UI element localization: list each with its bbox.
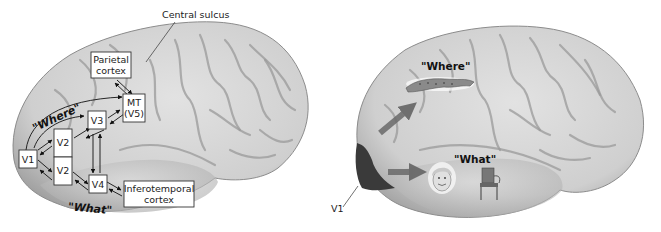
- figure-canvas: Central sulcus Parietal cortex MT (V5) V…: [0, 0, 661, 232]
- v3-label: V3: [91, 115, 104, 126]
- v2-upper-box: V2: [54, 129, 72, 157]
- v2-upper-label: V2: [57, 137, 70, 148]
- it-label-line1: Inferotemporal: [124, 183, 195, 194]
- right-what-label: "What": [454, 153, 496, 165]
- v4-box: V4: [89, 175, 107, 193]
- inferotemporal-cortex-box: Inferotemporal cortex: [124, 181, 195, 207]
- v2-lower-label: V2: [57, 165, 70, 176]
- right-v1-leader: [343, 186, 358, 207]
- parietal-cortex-box: Parietal cortex: [91, 52, 131, 78]
- v2-lower-box: V2: [54, 157, 72, 185]
- mt-label-line2: (V5): [124, 108, 144, 119]
- mt-label-line1: MT: [127, 97, 141, 108]
- v4-label: V4: [92, 179, 105, 190]
- right-v1-label: V1: [331, 203, 344, 214]
- what-stream-label: "What": [67, 200, 112, 217]
- parietal-label-line1: Parietal: [93, 54, 129, 65]
- v1-label: V1: [22, 154, 35, 165]
- v1-box: V1: [19, 150, 37, 168]
- right-where-label: "Where": [421, 60, 470, 72]
- central-sulcus-label: Central sulcus: [162, 9, 229, 20]
- v3-box: V3: [88, 111, 106, 129]
- parietal-label-line2: cortex: [96, 65, 126, 76]
- right-brain: [356, 26, 644, 217]
- face-icon: [428, 162, 456, 194]
- it-label-line2: cortex: [144, 194, 174, 205]
- mt-v5-box: MT (V5): [123, 94, 145, 122]
